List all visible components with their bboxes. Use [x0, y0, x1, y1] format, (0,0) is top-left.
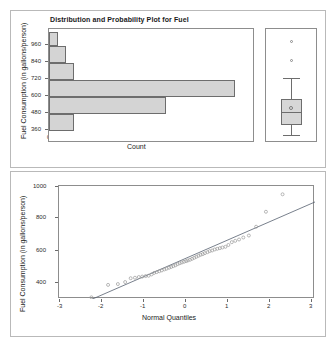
histogram-bar-810: [49, 46, 66, 63]
histogram-bar-930: [49, 32, 58, 46]
qq-xtickmark-0: [185, 299, 186, 302]
qq-xtickmark-1: [227, 299, 228, 302]
boxplot-lower-whisker: [291, 125, 292, 135]
histogram-x-axis-label: Count: [127, 143, 146, 150]
qq-ytick-800: 800: [36, 214, 46, 220]
qq-y-axis-label: Fuel Consumption (in gallons/person): [19, 196, 26, 312]
histogram-y-axis-label: Fuel Consumption (in gallons/person): [20, 23, 27, 139]
hist-ytick-600: 600: [31, 92, 41, 98]
hist-ytick-480: 480: [31, 109, 41, 115]
boxplot-outlier-960: [290, 40, 293, 43]
qq-data-point: [133, 276, 136, 279]
qq-data-point: [224, 245, 227, 248]
histogram-bar-570: [49, 80, 235, 97]
qq-data-point: [242, 236, 245, 239]
hist-ytick-960: 960: [31, 41, 41, 47]
qq-data-point: [137, 276, 140, 279]
qq-x-axis-label: Normal Quantiles: [142, 314, 196, 321]
boxplot-outlier-845: [290, 59, 293, 62]
hist-ytick-840: 840: [31, 58, 41, 64]
qq-xtick-2: 2: [267, 303, 270, 309]
qq-data-point: [247, 234, 250, 237]
qq-data-point: [238, 238, 241, 241]
boxplot-upper-whisker: [291, 78, 292, 99]
qq-xtick--2: -2: [98, 303, 103, 309]
qq-reference-line: [59, 202, 315, 299]
boxplot-plot-area: [265, 28, 317, 142]
histogram-plot-area: [48, 28, 254, 142]
figure-root: Distribution and Probability Plot for Fu…: [0, 0, 336, 347]
boxplot-mean-marker: [289, 106, 293, 110]
qq-data-point: [281, 193, 284, 196]
qq-data-point: [124, 281, 127, 284]
qq-data-point: [129, 277, 132, 280]
histogram-bar-690: [49, 63, 74, 80]
hist-ytick-360: 360: [31, 126, 41, 132]
qq-xtickmark--2: [101, 299, 102, 302]
qq-ytick-1000: 1000: [33, 183, 46, 189]
boxplot-lower-whisker-cap: [283, 135, 300, 136]
boxplot-median-line: [281, 112, 302, 113]
qq-plot-area: [58, 185, 314, 298]
qq-ytick-600: 600: [36, 247, 46, 253]
histogram-bar-450: [49, 97, 166, 114]
qq-data-point: [116, 283, 119, 286]
qq-xtickmark-3: [311, 299, 312, 302]
qq-data-point: [264, 210, 267, 213]
qq-xtick--1: -1: [140, 303, 145, 309]
chart-title: Distribution and Probability Plot for Fu…: [50, 16, 189, 23]
qq-data-point: [107, 283, 110, 286]
qq-xtickmark-2: [269, 299, 270, 302]
qq-data-point: [230, 241, 233, 244]
qq-data-point: [90, 296, 93, 299]
qq-xtick-1: 1: [225, 303, 228, 309]
qq-xtickmark--3: [59, 299, 60, 302]
hist-ytick-720: 720: [31, 75, 41, 81]
qq-xtick-0: 0: [183, 303, 186, 309]
qq-scatter-svg: [59, 186, 315, 299]
histogram-bar-330: [49, 114, 74, 131]
qq-ytick-400: 400: [36, 279, 46, 285]
qq-xtick--3: -3: [57, 303, 62, 309]
qq-point-group: [90, 193, 284, 299]
qq-data-point: [227, 243, 230, 246]
qq-xtick-3: 3: [309, 303, 312, 309]
qq-xtickmark--1: [143, 299, 144, 302]
qq-data-point: [234, 239, 237, 242]
